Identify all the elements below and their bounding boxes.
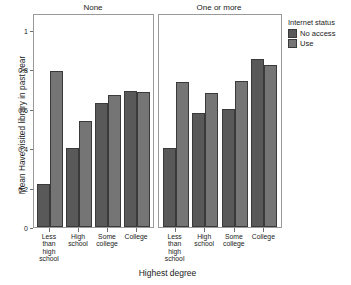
x-axis-ticks <box>158 228 282 232</box>
y-axis-tick-label: 1 <box>24 28 28 35</box>
bar-no-access <box>95 103 108 227</box>
bar-no-access <box>124 91 137 227</box>
x-axis-tick <box>204 228 205 232</box>
x-axis-labels: LessthanhighschoolHighschoolSomecollegeC… <box>158 233 282 267</box>
legend: Internet status No access Use <box>288 18 350 49</box>
x-axis-tick <box>78 228 79 232</box>
bar-no-access <box>251 59 264 227</box>
bar-use <box>176 82 189 227</box>
x-axis-tick <box>136 228 137 232</box>
facet-title-one-or-more: One or more <box>157 3 281 12</box>
bar-use <box>205 93 218 227</box>
bar-no-access <box>192 113 205 227</box>
legend-swatch-use <box>288 39 297 48</box>
bar-no-access <box>37 184 50 227</box>
x-axis-category-label: Somecollege <box>92 233 122 248</box>
y-axis-tick-label: 0.2 <box>18 185 28 192</box>
bar-no-access <box>66 148 79 227</box>
x-axis-category-label: Lessthanhighschool <box>160 233 190 263</box>
bar-use <box>108 95 121 227</box>
x-axis-tick <box>107 228 108 232</box>
bar-group <box>192 30 218 227</box>
x-axis-category-label: Highschool <box>63 233 93 248</box>
bar-no-access <box>163 148 176 227</box>
x-axis-category-label: College <box>248 233 278 240</box>
legend-item-no-access: No access <box>288 29 350 38</box>
facet-panel-one-or-more <box>158 14 282 228</box>
plot-area-none <box>34 30 153 227</box>
plot-area-one-or-more <box>159 30 281 227</box>
bar-use <box>235 81 248 227</box>
x-axis-labels: LessthanhighschoolHighschoolSomecollegeC… <box>33 233 154 267</box>
y-axis-tick-label: 0.6 <box>18 106 28 113</box>
bar-group <box>37 30 63 227</box>
bar-group <box>95 30 121 227</box>
legend-swatch-no-access <box>288 29 297 38</box>
bar-group <box>124 30 150 227</box>
x-axis-tick <box>175 228 176 232</box>
y-axis-tick-label: 0.8 <box>18 67 28 74</box>
bar-group <box>163 30 189 227</box>
bar-group <box>222 30 248 227</box>
bar-use <box>264 65 277 227</box>
x-axis-tick <box>234 228 235 232</box>
legend-title: Internet status <box>288 18 350 27</box>
legend-label-no-access: No access <box>300 29 335 38</box>
x-axis-category-label: College <box>121 233 151 240</box>
bar-group <box>66 30 92 227</box>
x-axis-tick <box>49 228 50 232</box>
bar-chart: None One or more Mean Have visited libra… <box>0 0 351 285</box>
bar-no-access <box>222 109 235 227</box>
x-axis-category-label: Lessthanhighschool <box>34 233 64 263</box>
x-axis-category-label: Highschool <box>189 233 219 248</box>
x-axis-category-label: Somecollege <box>219 233 249 248</box>
bar-use <box>137 92 150 227</box>
x-axis-ticks <box>33 228 154 232</box>
y-axis-tick-label: 0 <box>24 225 28 232</box>
x-axis-title: Highest degree <box>60 268 275 278</box>
y-axis: 00.20.40.60.81 <box>0 14 33 228</box>
bar-use <box>79 121 92 227</box>
facet-title-none: None <box>33 3 153 12</box>
facet-panel-none <box>33 14 154 228</box>
legend-label-use: Use <box>300 39 314 48</box>
x-axis-tick <box>263 228 264 232</box>
bar-group <box>251 30 277 227</box>
y-axis-tick-label: 0.4 <box>18 146 28 153</box>
legend-item-use: Use <box>288 39 350 48</box>
bar-use <box>50 71 63 227</box>
